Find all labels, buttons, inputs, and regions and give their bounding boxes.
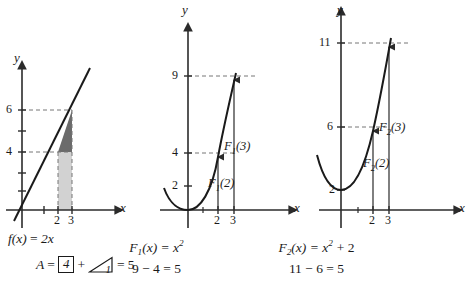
ytick-label-4: 4	[6, 144, 12, 159]
ytick-label-2: 2	[172, 178, 178, 193]
xtick-label-3: 3	[385, 213, 391, 228]
ytick-label-6: 6	[327, 119, 333, 134]
y-axis-label: y	[14, 50, 20, 66]
caption-F2-line2: 11 − 6 = 5	[160, 261, 473, 277]
xtick-label-2: 2	[54, 213, 60, 228]
curve-linear	[14, 68, 90, 221]
xtick-label-3: 3	[68, 213, 74, 228]
point-label-F1-3-F: F	[224, 139, 232, 153]
y-axis-label: y	[337, 2, 343, 18]
caption-F1-F: F	[129, 240, 137, 255]
xtick-label-2: 2	[369, 213, 375, 228]
x-axis-label: x	[120, 200, 126, 216]
point-label-F2-2-F: F	[363, 156, 371, 170]
y-axis-label: y	[182, 2, 188, 18]
shaded-rectangle	[58, 152, 72, 210]
caption-F2-tail: + 2	[337, 240, 355, 255]
point-label-F2-3-F: F	[379, 120, 387, 134]
point-label-F2-3-arg: (3)	[391, 120, 406, 134]
ytick-label-9: 9	[172, 68, 178, 83]
caption-F2-exponent: 2	[328, 238, 333, 248]
x-axis-label: x	[294, 200, 300, 216]
point-label-F2-2-arg: (2)	[375, 156, 390, 170]
point-label-F1-3: F1(3)	[224, 139, 250, 156]
figure-root: y x 6 4 2 3 f(x) = 2x A = 4 + 1 = 5	[0, 0, 473, 286]
point-label-F1-2: F1(2)	[208, 176, 234, 193]
panel-linear-plot	[0, 0, 150, 232]
ytick-label-2: 2	[329, 182, 335, 197]
point-label-F2-2: F2(2)	[363, 156, 389, 173]
point-label-F2-3: F2(3)	[379, 120, 405, 137]
point-label-F1-3-arg: (3)	[236, 139, 251, 153]
xtick-label-2: 2	[214, 213, 220, 228]
panel-F2-plot	[313, 0, 473, 232]
x-axis-label: x	[459, 200, 465, 216]
point-label-F1-2-arg: (2)	[220, 176, 235, 190]
caption-F2-rest: (x) = x	[291, 240, 328, 255]
ytick-label-6: 6	[6, 102, 12, 117]
point-label-F1-2-F: F	[208, 176, 216, 190]
caption-F2-F: F	[278, 240, 286, 255]
ytick-label-11: 11	[319, 35, 331, 50]
panel-F1-plot	[150, 0, 313, 232]
xtick-label-3: 3	[230, 213, 236, 228]
caption-F2-line1: F2(x) = x2+ 2	[160, 238, 473, 257]
ytick-label-4: 4	[172, 145, 178, 160]
